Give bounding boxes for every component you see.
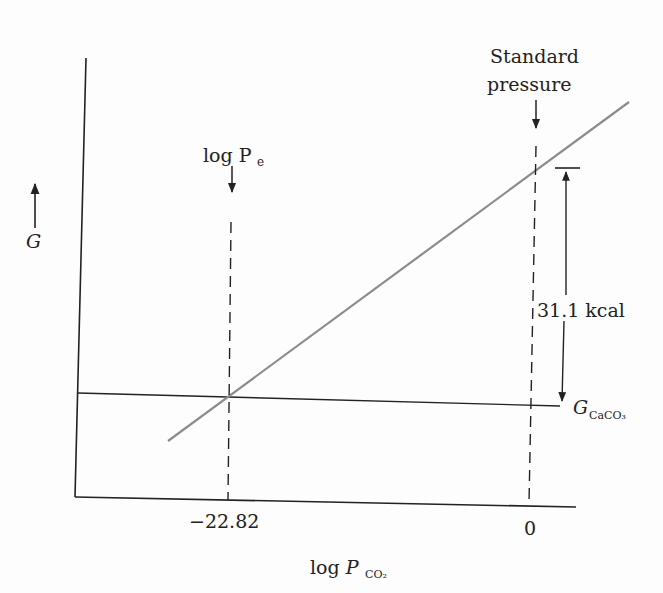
std-dashed-line [529, 146, 536, 503]
g-caco3-subscript: CaCO₃ [589, 409, 626, 422]
gap-down-arrow-icon [562, 321, 564, 401]
pe-dashed-line [228, 222, 231, 500]
pe-subscript: e [257, 155, 264, 169]
tick-zero: 0 [524, 517, 536, 539]
g-caco3-line [78, 393, 560, 406]
g-caco3-label: G [573, 396, 588, 418]
diagram-canvas: G log P e Standard pressure 31.1 kcal G … [0, 0, 663, 593]
std-label-line2: pressure [487, 73, 572, 95]
x-axis [75, 497, 576, 507]
x-axis-label: log P [310, 556, 360, 578]
y-axis [75, 58, 86, 497]
std-label-line1: Standard [490, 45, 579, 67]
gibbs-energy-diagram: G log P e Standard pressure 31.1 kcal G … [0, 0, 663, 593]
x-axis-subscript: CO₂ [365, 568, 387, 581]
pe-label: log P [203, 144, 252, 166]
tick-pe: −22.82 [189, 510, 259, 532]
gap-label: 31.1 kcal [537, 299, 625, 321]
y-axis-label: G [26, 230, 41, 252]
